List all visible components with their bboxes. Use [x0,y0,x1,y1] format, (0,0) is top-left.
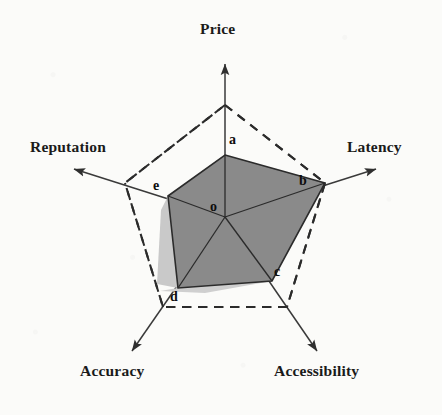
radar-chart-svg [0,0,442,415]
vertex-label-d: d [170,289,178,305]
axis-label-accessibility: Accessibility [274,362,359,380]
axis-label-accuracy: Accuracy [80,362,144,380]
dash-connector-left [125,183,163,307]
vertex-label-a: a [229,132,236,148]
axis-label-price: Price [200,20,235,38]
axis-label-latency: Latency [347,138,402,156]
axis-label-reputation: Reputation [30,138,106,156]
vertex-label-c: c [274,264,280,280]
vertex-label-b: b [299,173,307,189]
radar-chart-figure: Price Latency Accessibility Accuracy Rep… [0,0,442,415]
vertex-label-o: o [210,199,217,215]
vertex-label-e: e [153,178,159,194]
